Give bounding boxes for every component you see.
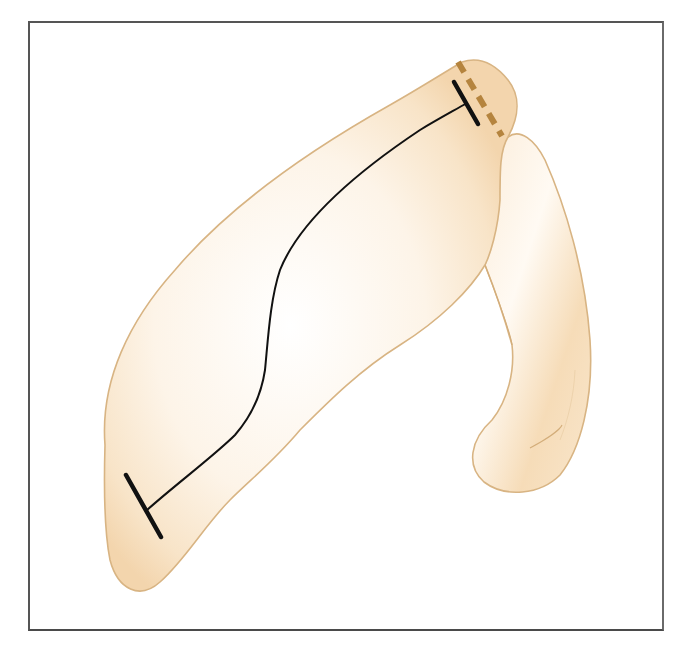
figure-caption xyxy=(28,640,668,648)
main-shape xyxy=(104,60,517,591)
anatomical-illustration xyxy=(0,0,694,648)
